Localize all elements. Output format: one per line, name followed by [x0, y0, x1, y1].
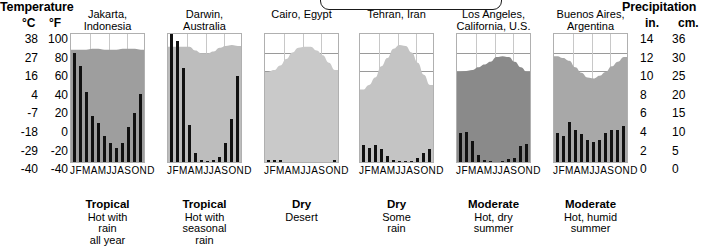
precipitation-bar [483, 160, 486, 162]
precipitation-bar [568, 122, 571, 162]
precipitation-bar [206, 161, 209, 162]
inches-tick: 10 [640, 70, 674, 89]
plot-area [553, 33, 628, 163]
precipitation-bar [188, 125, 191, 162]
precipitation-bar [218, 157, 221, 162]
precipitation-bar [362, 145, 365, 162]
month-axis-labels: JFMAMJJASOND [553, 165, 628, 176]
precipitation-bars [554, 34, 627, 162]
precipitation-bar [170, 33, 173, 162]
centimeters-tick: 36 [672, 33, 706, 52]
precipitation-bar [525, 144, 528, 162]
celsius-axis: 3827164-7-18-29-40 [4, 33, 38, 182]
fahrenheit-tick: -40 [34, 163, 68, 182]
plot-area [359, 33, 434, 163]
precipitation-bar [103, 136, 106, 162]
precipitation-bar [610, 130, 613, 163]
precipitation-bar [224, 143, 227, 162]
precipitation-bar [422, 153, 425, 162]
precipitation-bar [127, 127, 130, 162]
plot-area [70, 33, 145, 163]
fahrenheit-tick: 0 [34, 126, 68, 145]
climate-panel-3: Cairo, EgyptJFMAMJJASONDDryDesert [264, 33, 339, 163]
fahrenheit-tick: 20 [34, 107, 68, 126]
precipitation-bar [471, 141, 474, 162]
precipitation-bar [267, 160, 270, 162]
precipitation-bar [477, 155, 480, 162]
centimeters-tick: 10 [672, 126, 706, 145]
fahrenheit-tick: -20 [34, 145, 68, 164]
centimeters-tick: 25 [672, 70, 706, 89]
precipitation-bar [392, 160, 395, 162]
precipitation-bar [212, 160, 215, 162]
inches-tick: 6 [640, 107, 674, 126]
climate-panel-5: Los Angeles, California, U.S.JFMAMJJASON… [456, 33, 531, 163]
precipitation-bar [109, 143, 112, 162]
centimeters-tick: 0 [672, 163, 706, 182]
climate-panel-6: Buenos Aires, ArgentinaJFMAMJJASONDModer… [553, 33, 628, 163]
precipitation-bar [513, 158, 516, 162]
precipitation-bar [592, 142, 595, 162]
precipitation-bar [230, 119, 233, 162]
centimeters-unit-label: cm. [678, 16, 699, 30]
precipitation-bars [168, 34, 241, 162]
fahrenheit-tick: 60 [34, 70, 68, 89]
centimeters-tick: 20 [672, 89, 706, 108]
precipitation-bar [386, 156, 389, 162]
climate-description: Hot, humid summer [564, 211, 617, 235]
climate-description: Hot, dry summer [474, 211, 514, 235]
fahrenheit-axis: 100806040200-20-40 [34, 33, 68, 182]
precipitation-bar [507, 159, 510, 162]
precipitation-bar [133, 113, 136, 162]
celsius-tick: -7 [4, 107, 38, 126]
celsius-tick: -18 [4, 126, 38, 145]
month-axis-labels: JFMAMJJASOND [456, 165, 531, 176]
month-axis-labels: JFMAMJJASOND [359, 165, 434, 176]
precipitation-bar [586, 140, 589, 162]
celsius-tick: 4 [4, 89, 38, 108]
precipitation-bar [562, 136, 565, 162]
celsius-tick: 27 [4, 52, 38, 71]
precipitation-bar [273, 160, 276, 162]
precipitation-bar [398, 161, 401, 162]
fahrenheit-tick: 80 [34, 52, 68, 71]
climate-description: Desert [285, 211, 317, 223]
precipitation-bar [574, 130, 577, 163]
precipitation-bar [73, 53, 76, 162]
precipitation-bars [71, 34, 144, 162]
precipitation-bar [333, 160, 336, 162]
precipitation-bars [360, 34, 433, 162]
precipitation-bar [374, 145, 377, 162]
climate-panel-1: Jakarta, IndonesiaJFMAMJJASONDTropicalHo… [70, 33, 145, 163]
inches-tick: 0 [640, 163, 674, 182]
precipitation-bar [97, 123, 100, 162]
inches-tick: 2 [640, 145, 674, 164]
climate-type-label: Moderate [531, 199, 651, 211]
month-axis-labels: JFMAMJJASOND [70, 165, 145, 176]
precipitation-bar [79, 66, 82, 162]
inches-axis: 14121086420 [640, 33, 674, 182]
inches-tick: 14 [640, 33, 674, 52]
precipitation-bar [501, 161, 504, 162]
precipitation-bar [556, 133, 559, 162]
precipitation-bar [416, 158, 419, 162]
plot-area [456, 33, 531, 163]
precipitation-bar [519, 146, 522, 162]
precipitation-bar [380, 149, 383, 162]
fahrenheit-tick: 40 [34, 89, 68, 108]
inches-tick: 8 [640, 89, 674, 108]
precipitation-bar [580, 134, 583, 162]
precipitation-bar [616, 130, 619, 162]
precipitation-bar [91, 116, 94, 162]
precipitation-bar [368, 148, 371, 162]
inches-tick: 4 [640, 126, 674, 145]
precipitation-bar [121, 143, 124, 162]
precipitation-bar [85, 92, 88, 162]
precipitation-bar [489, 161, 492, 162]
panel-caption: ModerateHot, humid summer [531, 199, 651, 235]
celsius-unit-label: °C [22, 16, 35, 30]
centimeters-axis: 36302520151050 [672, 33, 706, 182]
precipitation-bar [236, 76, 239, 162]
panel-city-title: Buenos Aires, Argentina [521, 9, 661, 32]
precipitation-bar [182, 68, 185, 162]
